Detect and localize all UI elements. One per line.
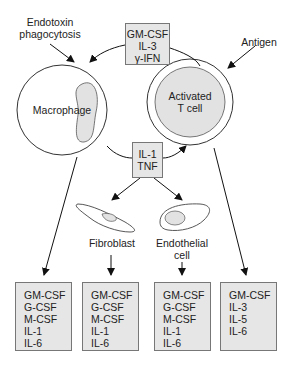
output-item: IL-1 xyxy=(91,325,138,337)
output-item: IL-5 xyxy=(229,313,276,325)
output-item: IL-3 xyxy=(229,301,276,313)
stimulus-line-2: phagocytosis xyxy=(10,28,90,40)
tcell-label: Activated T cell xyxy=(160,90,220,114)
macrophage-label: Macrophage xyxy=(24,104,100,116)
output-box-fibroblast: GM-CSF G-CSF M-CSF IL-1 IL-6 xyxy=(82,282,139,351)
output-item: G-CSF xyxy=(163,301,210,313)
output-item: IL-6 xyxy=(229,325,276,337)
endothelial-label: Endothelial cell xyxy=(150,237,214,261)
output-box-endothelial: GM-CSF G-CSF M-CSF IL-1 IL-6 xyxy=(154,282,211,351)
output-item: G-CSF xyxy=(91,301,138,313)
output-box-macrophage: GM-CSF G-CSF M-CSF IL-1 IL-6 xyxy=(15,282,72,351)
output-item: GM-CSF xyxy=(163,289,210,301)
endothelial-cell xyxy=(160,204,210,231)
endotoxin-phagocytosis-label: Endotoxin phagocytosis xyxy=(10,16,90,40)
output-item: GM-CSF xyxy=(24,289,71,301)
output-item: G-CSF xyxy=(24,301,71,313)
output-item: IL-6 xyxy=(163,337,210,349)
cytokine-item: IL-1 xyxy=(133,148,162,160)
output-item: M-CSF xyxy=(163,313,210,325)
cytokine-item: GM-CSF xyxy=(126,28,169,40)
antigen-label: Antigen xyxy=(234,36,284,48)
cytokine-item: γ-IFN xyxy=(126,52,169,64)
tcell-line-1: Activated xyxy=(160,90,220,102)
endothelial-line-1: Endothelial xyxy=(150,237,214,249)
output-item: GM-CSF xyxy=(229,289,276,301)
output-item: GM-CSF xyxy=(91,289,138,301)
output-item: IL-6 xyxy=(24,337,71,349)
output-item: IL-1 xyxy=(24,325,71,337)
tcell-line-2: T cell xyxy=(160,102,220,114)
output-item: M-CSF xyxy=(24,313,71,325)
cytokine-item: TNF xyxy=(133,160,162,172)
fibroblast-cell xyxy=(76,204,134,232)
stimulus-line-1: Endotoxin xyxy=(10,16,90,28)
cytokine-box-il1-tnf: IL-1 TNF xyxy=(132,142,163,178)
output-box-tcell: GM-CSF IL-3 IL-5 IL-6 xyxy=(220,282,277,351)
output-item: IL-6 xyxy=(91,337,138,349)
fibroblast-label: Fibroblast xyxy=(82,237,142,249)
output-item: M-CSF xyxy=(91,313,138,325)
cytokine-item: IL-3 xyxy=(126,40,169,52)
endothelial-line-2: cell xyxy=(150,249,214,261)
cytokine-box-gmcsf-il3-ifn: GM-CSF IL-3 γ-IFN xyxy=(125,23,170,65)
output-item: IL-1 xyxy=(163,325,210,337)
